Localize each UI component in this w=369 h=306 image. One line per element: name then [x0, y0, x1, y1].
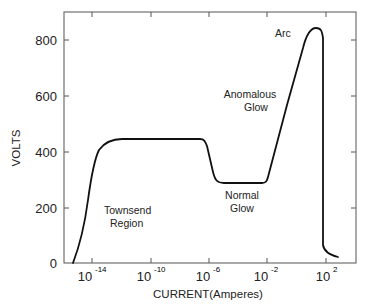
- svg-text:-6: -6: [213, 265, 221, 274]
- x-tick-label: 10 -6: [196, 265, 221, 284]
- svg-text:10: 10: [78, 269, 92, 284]
- x-tick-label: 10 -14: [78, 265, 107, 284]
- annotation-townsend-region: Region: [110, 217, 143, 229]
- svg-text:-2: -2: [271, 265, 279, 274]
- y-ticks-right: [351, 40, 356, 208]
- x-tick-label: 10 2: [316, 265, 338, 284]
- y-tick-label: 600: [35, 89, 57, 104]
- svg-text:10: 10: [254, 269, 268, 284]
- x-axis-title: CURRENT(Amperes): [153, 288, 263, 300]
- x-tick-label: 10 -10: [137, 265, 166, 284]
- annotation-arc: Arc: [275, 27, 291, 39]
- svg-text:-10: -10: [154, 265, 166, 274]
- annotation-townsend: Townsend: [104, 204, 151, 216]
- y-axis-title: VOLTS: [10, 129, 22, 166]
- svg-text:2: 2: [333, 265, 338, 274]
- plot-frame: [64, 12, 356, 263]
- svg-text:10: 10: [137, 269, 151, 284]
- svg-text:10: 10: [196, 269, 210, 284]
- y-tick-label: 400: [35, 145, 57, 160]
- y-ticks-left: [64, 40, 69, 208]
- x-ticks-bottom: [92, 258, 326, 263]
- svg-text:10: 10: [316, 269, 330, 284]
- annotation-normal: Normal: [225, 189, 259, 201]
- annotation-normal-glow: Glow: [230, 202, 254, 214]
- chart-canvas: 0 200 400 600 800 10 -14 10 -10 10 -6 10…: [0, 0, 369, 306]
- y-tick-label: 200: [35, 201, 57, 216]
- y-tick-label: 0: [50, 256, 57, 271]
- svg-text:-14: -14: [95, 265, 107, 274]
- y-tick-label: 800: [35, 33, 57, 48]
- annotation-anomalous: Anomalous: [224, 88, 277, 100]
- x-ticks-top: [92, 12, 326, 17]
- annotation-anomalous-glow: Glow: [244, 101, 268, 113]
- x-tick-label: 10 -2: [254, 265, 279, 284]
